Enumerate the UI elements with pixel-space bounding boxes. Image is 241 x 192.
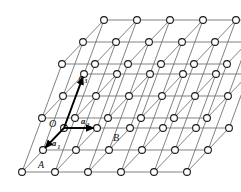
lattice-node [192, 93, 199, 100]
lattice-node [52, 169, 59, 176]
lattice-edge [76, 128, 97, 150]
vector-a3-subscript: 3 [84, 78, 88, 84]
lattice-node [60, 93, 67, 100]
lattice-node [212, 39, 219, 46]
lattice-edge [95, 42, 116, 64]
lattice-edge [154, 150, 175, 172]
lattice-node [94, 125, 101, 132]
lattice-node [125, 61, 132, 68]
lattice-edge [121, 150, 142, 172]
lattice-edge [195, 42, 215, 96]
lattice-edge [128, 42, 149, 64]
vector-a1-subscript: 1 [58, 144, 61, 150]
lattice-node [101, 17, 108, 24]
lattice-edge [42, 96, 63, 118]
origin-label: O [49, 118, 56, 129]
lattice-edge [108, 96, 129, 118]
lattice-edge [75, 96, 96, 118]
lattice-node [19, 169, 26, 176]
lattice-node [213, 71, 220, 78]
lattice-node [225, 93, 232, 100]
lattice-edge [175, 128, 196, 150]
lattice-node [180, 71, 187, 78]
lattice-edge [63, 42, 83, 96]
lattice-node [184, 169, 191, 176]
lattice-edge [116, 20, 137, 42]
lattice-edge [182, 20, 203, 42]
lattice-node [113, 39, 120, 46]
lattice-node [59, 61, 66, 68]
lattice-node [205, 147, 212, 154]
lattice-edge [83, 20, 104, 42]
lattice-node [114, 71, 121, 78]
lattice-node [191, 61, 198, 68]
lattice-node [106, 147, 113, 154]
lattice-edge [162, 74, 183, 96]
lattice-edge [175, 96, 195, 150]
lattice-edge [207, 96, 228, 118]
lattice-edge [129, 74, 150, 96]
lattice-node [160, 125, 167, 132]
lattice-edge [229, 74, 241, 128]
lattice-node [147, 71, 154, 78]
lattice-node [158, 61, 165, 68]
vector-a2-subscript: 2 [86, 122, 90, 128]
lattice-edge [187, 150, 208, 172]
lattice-node [193, 125, 200, 132]
lattice-node [171, 115, 178, 122]
lattice-node [118, 169, 125, 176]
lattice-node [92, 61, 99, 68]
lattice-edge [215, 20, 236, 42]
lattice-edge [62, 42, 83, 64]
lattice-node [126, 93, 133, 100]
lattice-node [172, 147, 179, 154]
lattice-edge [142, 128, 163, 150]
lattice-node [139, 147, 146, 154]
lattice-edge [228, 42, 241, 96]
lattice-edge [161, 42, 182, 64]
lattice-node [105, 115, 112, 122]
lattice-node [138, 115, 145, 122]
lattice-node [80, 39, 87, 46]
lattice-node [127, 125, 134, 132]
lattice-edge [88, 150, 109, 172]
lattice-edge [174, 96, 195, 118]
lattice-edge [208, 128, 229, 150]
lattice-node [93, 93, 100, 100]
lattice-edge [162, 42, 182, 96]
vector-a1-label: a [52, 138, 57, 148]
lattice-edge [96, 74, 117, 96]
lattice-node [226, 125, 233, 132]
lattice-edge [195, 74, 216, 96]
lattice-edge [42, 64, 62, 118]
lattice-node [200, 17, 207, 24]
lattice-node [85, 169, 92, 176]
point-a-label: A [37, 159, 45, 170]
lattice-node [72, 115, 79, 122]
lattice-edge [129, 42, 149, 96]
lattice-svg: O A B a 1 a 2 a 3 [0, 0, 241, 192]
lattice-edge [141, 96, 162, 118]
lattice-node [151, 169, 158, 176]
lattice-node [134, 17, 141, 24]
lattice-node [146, 39, 153, 46]
lattice-edge [96, 42, 116, 96]
lattice-node [167, 17, 174, 24]
lattice-node [179, 39, 186, 46]
point-b-label: B [113, 132, 119, 143]
lattice-node [39, 115, 46, 122]
lattice-figure: O A B a 1 a 2 a 3 [0, 0, 241, 192]
lattice-node [73, 147, 80, 154]
lattice-edge [142, 96, 162, 150]
lattice-node [224, 61, 231, 68]
lattice-node [233, 17, 240, 24]
lattice-edge [149, 20, 170, 42]
lattice-edge [194, 42, 215, 64]
lattice-node [159, 93, 166, 100]
lattice-edge [208, 96, 228, 150]
lattice-edge [55, 150, 76, 172]
lattice-node [204, 115, 211, 122]
